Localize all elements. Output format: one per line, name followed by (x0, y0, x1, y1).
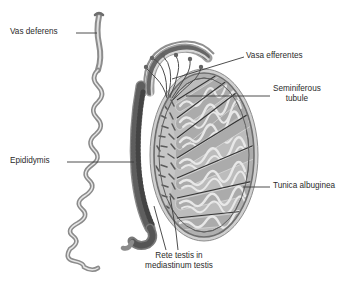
label-rete-testis-line2: mediastinum testis (129, 261, 229, 271)
label-epididymis: Epididymis (10, 156, 50, 166)
label-rete-testis-line1: Rete testis in (129, 251, 229, 261)
label-seminiferous-tubule-line1: Seminiferous (273, 84, 321, 94)
vas-deferens-group (68, 13, 132, 270)
label-seminiferous-tubule: Seminiferous tubule (273, 84, 321, 104)
label-vasa-efferentes-text: Vasa efferentes (246, 51, 303, 60)
diagram-canvas (0, 0, 356, 283)
label-epididymis-text: Epididymis (10, 156, 50, 165)
label-tunica-albuginea-text: Tunica albuginea (273, 181, 335, 190)
label-tunica-albuginea: Tunica albuginea (273, 181, 335, 191)
label-vasa-efferentes: Vasa efferentes (246, 51, 303, 61)
label-vas-deferens: Vas deferens (10, 27, 58, 37)
label-rete-testis: Rete testis in mediastinum testis (129, 251, 229, 271)
anatomy-diagram: Vas deferens Epididymis Vasa efferentes … (0, 0, 356, 283)
label-seminiferous-tubule-line2: tubule (273, 94, 321, 104)
label-vas-deferens-text: Vas deferens (10, 27, 58, 36)
